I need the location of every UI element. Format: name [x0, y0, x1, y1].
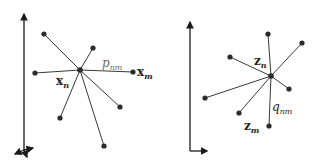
right-neighbor-node	[265, 31, 270, 36]
right-panel-embedding-space: zn qnm zm	[190, 22, 305, 151]
right-axes	[190, 22, 207, 151]
left-x-axis	[24, 148, 33, 150]
label-p-nm: pnm	[102, 56, 123, 72]
left-edge	[80, 70, 133, 72]
right-neighbor-node	[299, 40, 304, 45]
label-x-n: xn	[56, 74, 69, 90]
left-neighbor-node	[101, 143, 106, 148]
left-z-axis	[15, 150, 24, 154]
left-axes	[15, 14, 33, 157]
left-neighbor-node	[57, 115, 62, 120]
right-neighbor-node	[266, 123, 271, 128]
left-neighbor-node	[117, 104, 122, 109]
right-neighbor-node	[202, 95, 207, 100]
right-neighbor-node	[227, 54, 232, 59]
left-nodes	[32, 31, 135, 148]
left-edges	[35, 34, 133, 146]
left-center-node	[77, 67, 83, 73]
diagram-canvas: pnm xm xn zn qnm zm	[0, 0, 320, 168]
label-z-m: zm	[244, 119, 259, 135]
label-q-nm: qnm	[272, 100, 293, 116]
right-edge	[271, 43, 302, 76]
left-neighbor-node	[130, 69, 135, 74]
left-neighbor-node	[90, 45, 95, 50]
label-x-m: xm	[137, 65, 153, 81]
left-depth-axis	[24, 150, 27, 157]
label-z-n: zn	[254, 54, 267, 70]
left-edge	[80, 48, 93, 70]
right-neighbor-node	[286, 86, 291, 91]
left-neighbor-node	[41, 31, 46, 36]
left-edge	[44, 34, 80, 70]
right-edge	[271, 76, 289, 89]
left-edge	[35, 70, 80, 73]
right-center-node	[268, 73, 274, 79]
right-edge	[268, 34, 271, 76]
right-edge	[269, 76, 271, 126]
left-panel-input-space: pnm xm xn	[15, 14, 153, 157]
left-neighbor-node	[32, 70, 37, 75]
right-neighbor-node	[236, 110, 241, 115]
